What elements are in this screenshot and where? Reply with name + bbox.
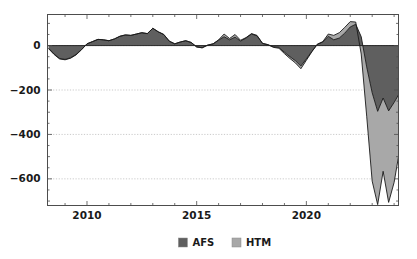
y-axis-label--400: −400 (10, 128, 41, 140)
y-axis-label--200: −200 (10, 84, 41, 96)
legend-swatch-htm[interactable] (232, 238, 241, 247)
legend-swatch-afs[interactable] (178, 238, 187, 247)
chart-container: 0−200−400−600 201020152020 AFSHTM (0, 0, 417, 259)
area-chart: 0−200−400−600 201020152020 AFSHTM (0, 0, 417, 259)
legend-label-htm[interactable]: HTM (246, 237, 271, 248)
y-axis-label-0: 0 (33, 39, 40, 51)
legend-label-afs[interactable]: AFS (192, 237, 214, 248)
x-axis-label-2015: 2015 (182, 209, 211, 221)
y-axis-label--600: −600 (10, 172, 41, 184)
x-axis-label-2020: 2020 (292, 209, 321, 221)
x-axis-label-2010: 2010 (72, 209, 101, 221)
